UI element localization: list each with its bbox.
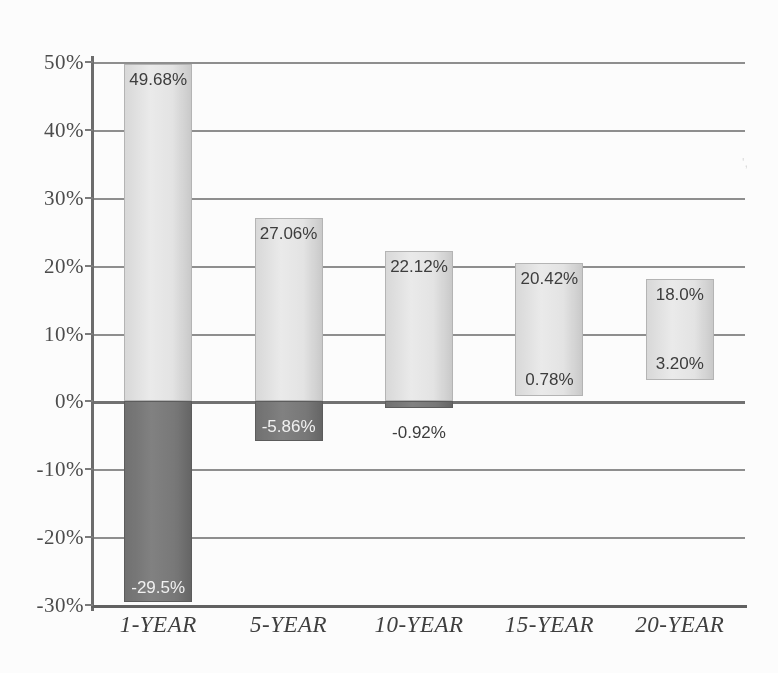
chart-figure: 49.68%-29.5%27.06%-5.86%22.12%-0.92%20.4… <box>0 0 778 673</box>
bar-label-low: -29.5% <box>131 578 185 598</box>
x-axis-labels: 1-YEAR5-YEAR10-YEAR15-YEAR20-YEAR <box>93 612 745 652</box>
bar-label-high: 49.68% <box>129 70 187 90</box>
y-tick-label: 0% <box>55 389 84 414</box>
bar-negative[interactable] <box>124 401 192 601</box>
plot-area: 49.68%-29.5%27.06%-5.86%22.12%-0.92%20.4… <box>93 62 745 605</box>
y-tickmark <box>85 333 93 335</box>
bar-group: 22.12%-0.92% <box>385 62 453 605</box>
bar-group: 49.68%-29.5% <box>124 62 192 605</box>
y-tick-label: 40% <box>44 117 84 142</box>
y-tickmark <box>85 536 93 538</box>
y-tick-label: 30% <box>44 185 84 210</box>
bar-label-high: 20.42% <box>521 269 579 289</box>
x-tick-label: 10-YEAR <box>374 612 463 638</box>
bar-label-low: -0.92% <box>392 423 446 443</box>
y-tickmark <box>85 265 93 267</box>
y-tickmark <box>85 604 93 606</box>
x-axis-line <box>91 605 747 608</box>
y-tick-label: -10% <box>37 457 85 482</box>
bar-group: 27.06%-5.86% <box>255 62 323 605</box>
bar-label-high: 22.12% <box>390 257 448 277</box>
y-tick-label: 50% <box>44 50 84 75</box>
bar-label-low: -5.86% <box>262 417 316 437</box>
y-tickmark <box>85 61 93 63</box>
y-tick-label: -20% <box>37 525 85 550</box>
bar-group: 20.42%0.78% <box>515 62 583 605</box>
x-tick-label: 1-YEAR <box>120 612 197 638</box>
y-tickmark <box>85 129 93 131</box>
scan-artifact: ', <box>742 155 756 169</box>
bar-positive[interactable] <box>124 64 192 401</box>
x-tick-label: 15-YEAR <box>505 612 594 638</box>
y-tick-label: 10% <box>44 321 84 346</box>
bar-negative[interactable] <box>385 401 453 407</box>
y-tickmark <box>85 400 93 402</box>
bar-label-high: 27.06% <box>260 224 318 244</box>
bar-label-low: 0.78% <box>525 370 573 390</box>
y-tickmark <box>85 197 93 199</box>
y-tick-label: 20% <box>44 253 84 278</box>
x-tick-label: 20-YEAR <box>635 612 724 638</box>
y-tick-label: -30% <box>37 593 85 618</box>
bar-positive[interactable] <box>255 218 323 402</box>
bar-group: 18.0%3.20% <box>646 62 714 605</box>
y-axis-labels: 50%40%30%20%10%0%-10%-20%-30% <box>0 62 84 605</box>
x-tick-label: 5-YEAR <box>250 612 327 638</box>
bar-label-high: 18.0% <box>656 285 704 305</box>
y-tickmark <box>85 468 93 470</box>
bar-label-low: 3.20% <box>656 354 704 374</box>
